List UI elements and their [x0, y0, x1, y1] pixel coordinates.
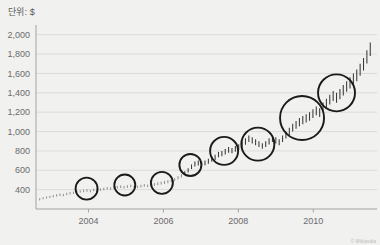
x-tick-label: 2006	[153, 216, 173, 226]
chart-root: 단위: $ 4006008001,0001,2001,4001,6001,800…	[0, 0, 380, 245]
plot-area: 4006008001,0001,2001,4001,6001,8002,000 …	[0, 0, 380, 245]
y-tick-label: 600	[15, 165, 30, 175]
y-tick-label: 1,600	[7, 69, 30, 79]
annotation-circle	[280, 96, 324, 140]
x-tick-label: 2008	[228, 216, 248, 226]
y-tick-label: 1,200	[7, 107, 30, 117]
annotation-circle	[151, 172, 173, 194]
x-tick-label: 2004	[78, 216, 98, 226]
y-tick-label: 400	[15, 185, 30, 195]
y-tick-label: 2,000	[7, 30, 30, 40]
y-tick-label: 1,400	[7, 88, 30, 98]
y-axis-labels-group: 4006008001,0001,2001,4001,6001,8002,000	[7, 30, 30, 195]
x-tick-label: 2010	[303, 216, 323, 226]
y-tick-label: 800	[15, 146, 30, 156]
y-tick-label: 1,000	[7, 127, 30, 137]
ohlc-bars-group	[40, 42, 371, 200]
gridlines-group	[36, 35, 377, 190]
credit-text: © Wikipedia	[351, 239, 376, 244]
annotation-circle	[114, 174, 135, 195]
y-tick-label: 1,800	[7, 49, 30, 59]
x-axis-labels-group: 2004200620082010	[78, 216, 323, 226]
annotation-circle	[76, 178, 98, 200]
axis-lines-group	[36, 25, 377, 213]
price-chart-svg: 4006008001,0001,2001,4001,6001,8002,000 …	[0, 0, 380, 245]
